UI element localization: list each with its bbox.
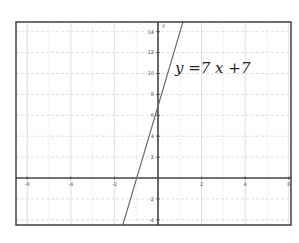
graph: -6-4-2246-4-22468101214 y y =7 x +7 — [0, 0, 299, 243]
y-tick-label: 2 — [151, 154, 154, 160]
equation-label: y =7 x +7 — [174, 59, 251, 77]
y-tick-label: -4 — [149, 217, 154, 223]
y-tick-label: 10 — [148, 70, 154, 76]
y-axis-label: y — [162, 22, 165, 29]
x-tick-label: 2 — [200, 181, 203, 187]
x-tick-label: 6 — [287, 181, 290, 187]
y-tick-label: 8 — [151, 91, 154, 97]
y-tick-label: 6 — [151, 112, 154, 118]
y-tick-label: 12 — [148, 49, 154, 55]
y-tick-label: 14 — [148, 29, 154, 35]
y-tick-label: 4 — [151, 133, 154, 139]
x-tick-label: -4 — [68, 181, 73, 187]
x-tick-label: 4 — [244, 181, 247, 187]
x-tick-label: -6 — [25, 181, 30, 187]
x-tick-label: -2 — [112, 181, 117, 187]
y-tick-label: -2 — [149, 196, 154, 202]
